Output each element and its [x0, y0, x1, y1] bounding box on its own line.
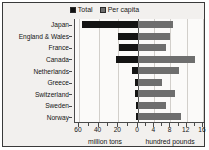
value-tick-label: 0	[135, 126, 139, 134]
chart-row	[75, 31, 204, 43]
category-label: Greece	[47, 79, 69, 86]
bar-total	[82, 21, 138, 28]
category-tick	[69, 83, 72, 84]
bar-total	[118, 33, 138, 40]
value-tick-label: 16	[198, 126, 205, 134]
category-tick	[69, 25, 72, 26]
value-tick-label: 40	[94, 126, 101, 134]
bar-per-capita	[138, 113, 181, 120]
category-label: Japan	[51, 21, 69, 28]
legend-swatch-per-capita-icon	[100, 7, 106, 13]
category-label: Sweden	[45, 102, 69, 109]
category-tick	[69, 36, 72, 37]
chart-legend: Total Per capita	[3, 6, 206, 14]
category-tick	[69, 94, 72, 95]
value-tick-label: 8	[168, 126, 172, 134]
chart-row	[75, 111, 204, 123]
category-label: Canada	[46, 56, 69, 63]
category-label: Norway	[47, 114, 69, 121]
bar-per-capita	[138, 67, 179, 74]
bar-per-capita	[138, 102, 166, 109]
bar-per-capita	[138, 79, 162, 86]
legend-item-total: Total	[70, 6, 93, 14]
category-tick	[69, 106, 72, 107]
bar-per-capita	[138, 44, 166, 51]
bar-per-capita	[138, 56, 195, 63]
category-axis: JapanEngland & WalesFranceCanadaNetherla…	[3, 19, 72, 123]
value-axis-labels: 6040200481216	[3, 126, 206, 135]
legend-label-per-capita: Per capita	[108, 6, 140, 14]
chart-row	[75, 77, 204, 89]
bar-per-capita	[138, 21, 173, 28]
value-tick-label: 20	[114, 126, 121, 134]
category-tick	[69, 117, 72, 118]
axis-title-right: hundred pounds	[145, 137, 194, 146]
category-label: England & Wales	[19, 33, 69, 40]
category-label: France	[48, 44, 69, 51]
bar-per-capita	[138, 33, 170, 40]
chart-row	[75, 100, 204, 112]
legend-label-total: Total	[78, 6, 93, 14]
chart-frame: Total Per capita JapanEngland & WalesFra…	[2, 2, 205, 147]
chart-row	[75, 19, 204, 31]
value-tick-label: 60	[74, 126, 81, 134]
plot-area	[74, 19, 204, 123]
legend-item-per-capita: Per capita	[100, 6, 140, 14]
category-label: Netherlands	[33, 68, 69, 75]
bar-total	[116, 56, 138, 63]
category-tick	[69, 48, 72, 49]
axis-titles: million tons hundred pounds	[3, 137, 206, 147]
category-tick	[69, 59, 72, 60]
bar-per-capita	[138, 90, 175, 97]
bar-total	[119, 44, 138, 51]
axis-title-left: million tons	[88, 137, 122, 146]
value-tick-label: 4	[151, 126, 155, 134]
category-tick	[69, 71, 72, 72]
legend-swatch-total-icon	[70, 7, 76, 13]
chart-row	[75, 42, 204, 54]
chart-row	[75, 88, 204, 100]
value-tick-label: 12	[182, 126, 189, 134]
chart-row	[75, 54, 204, 66]
category-label: Switzerland	[35, 91, 69, 98]
chart-row	[75, 65, 204, 77]
